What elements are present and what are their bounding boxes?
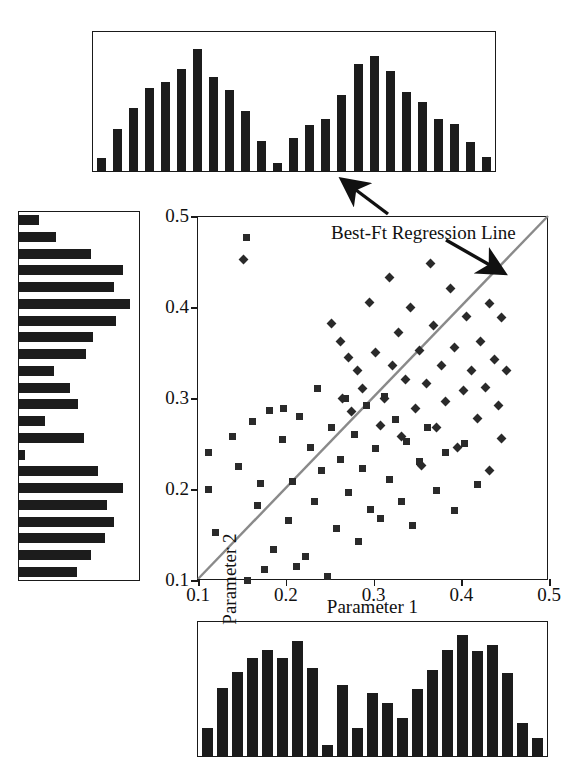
arrow-to-top-histogram — [344, 181, 388, 214]
scatter-point-square — [280, 405, 287, 412]
histogram-bar — [209, 77, 218, 171]
histogram-bar — [193, 49, 202, 171]
histogram-bar — [19, 533, 105, 543]
scatter-point-square — [314, 385, 321, 392]
scatter-point-square — [337, 456, 344, 463]
regression-annotation-label: Best-Ft Regression Line — [331, 222, 516, 244]
scatter-point-square — [377, 515, 384, 522]
scatter-point-square — [328, 424, 335, 431]
histogram-bar — [367, 693, 378, 756]
scatter-point-square — [266, 407, 273, 414]
histogram-bar — [482, 157, 491, 171]
y-tick-mark — [191, 489, 198, 491]
histogram-bar — [19, 316, 116, 326]
scatter-point-square — [386, 476, 393, 483]
histogram-bar — [19, 450, 25, 460]
histogram-bar — [382, 703, 393, 756]
histogram-bar — [19, 282, 114, 292]
scatter-point-square — [367, 506, 374, 513]
scatter-point-square — [289, 478, 296, 485]
histogram-bar — [273, 163, 282, 171]
scatter-point-square — [474, 481, 481, 488]
histogram-bar — [113, 129, 122, 171]
histogram-bar — [19, 332, 93, 342]
scatter-point-square — [229, 433, 236, 440]
histogram-bar — [307, 668, 318, 756]
histogram-bar — [19, 567, 77, 577]
histogram-bar — [262, 650, 273, 756]
histogram-bar — [352, 728, 363, 756]
histogram-bar — [19, 349, 86, 359]
scatter-point-square — [461, 440, 468, 447]
histogram-bar — [402, 92, 411, 171]
histogram-bar — [232, 672, 243, 756]
scatter-point-square — [318, 467, 325, 474]
histogram-bar — [370, 56, 379, 171]
histogram-bar — [442, 650, 453, 756]
left-histogram-bars — [19, 212, 139, 580]
histogram-bar — [19, 299, 130, 309]
histogram-bar — [19, 399, 78, 409]
y-tick-label: 0.3 — [165, 387, 189, 409]
histogram-bar — [19, 215, 39, 225]
scatter-plot: 0.10.20.30.40.5 0.10.20.30.40.5 Paramete… — [197, 216, 548, 580]
histogram-bar — [145, 88, 154, 171]
histogram-bar — [19, 483, 123, 493]
histogram-bar — [129, 108, 138, 171]
scatter-point-square — [205, 449, 212, 456]
scatter-point-square — [442, 449, 449, 456]
histogram-bar — [257, 141, 266, 171]
scatter-point-square — [296, 413, 303, 420]
histogram-bar — [202, 728, 213, 756]
histogram-bar — [247, 658, 258, 756]
histogram-bar — [277, 658, 288, 756]
scatter-point-square — [433, 487, 440, 494]
histogram-bar — [19, 249, 91, 259]
scatter-point-square — [293, 563, 300, 570]
scatter-point-square — [363, 402, 370, 409]
y-tick-mark — [191, 307, 198, 309]
histogram-bar — [19, 366, 54, 376]
histogram-bar — [418, 102, 427, 171]
histogram-bar — [502, 673, 513, 756]
top-histogram-bars — [93, 32, 495, 171]
histogram-bar — [487, 645, 498, 756]
histogram-bar — [472, 651, 483, 756]
histogram-bar — [19, 416, 45, 426]
scatter-point-square — [324, 573, 331, 580]
y-tick-label: 0.4 — [165, 296, 189, 318]
scatter-point-square — [270, 546, 277, 553]
scatter-point-square — [212, 529, 219, 536]
x-axis-title: Parameter 1 — [197, 596, 548, 618]
histogram-bar — [305, 125, 314, 171]
histogram-bar — [19, 232, 56, 242]
histogram-bar — [337, 95, 346, 171]
scatter-point-square — [333, 525, 340, 532]
scatter-point-square — [257, 480, 264, 487]
histogram-bar — [292, 641, 303, 756]
scatter-point-square — [398, 498, 405, 505]
scatter-point-square — [244, 577, 251, 584]
scatter-point-square — [409, 522, 416, 529]
histogram-bar — [289, 138, 298, 171]
scatter-with-marginal-histograms-figure: 0.10.20.30.40.5 0.10.20.30.40.5 Paramete… — [0, 0, 584, 763]
scatter-point-square — [235, 463, 242, 470]
scatter-point-square — [279, 436, 286, 443]
y-tick-mark — [191, 216, 198, 218]
histogram-bar — [19, 550, 91, 560]
histogram-bar — [386, 71, 395, 171]
histogram-bar — [161, 82, 170, 171]
histogram-bar — [97, 158, 106, 171]
histogram-bar — [217, 688, 228, 756]
scatter-point-square — [403, 438, 410, 445]
bottom-histogram-bars — [198, 622, 547, 756]
scatter-point-square — [302, 553, 309, 560]
histogram-bar — [427, 670, 438, 756]
y-tick-mark — [191, 580, 198, 582]
scatter-point-square — [254, 502, 261, 509]
scatter-point-square — [451, 507, 458, 514]
bottom-marginal-histogram — [197, 621, 548, 757]
scatter-point-square — [243, 234, 250, 241]
histogram-bar — [241, 111, 250, 171]
y-tick-mark — [191, 398, 198, 400]
